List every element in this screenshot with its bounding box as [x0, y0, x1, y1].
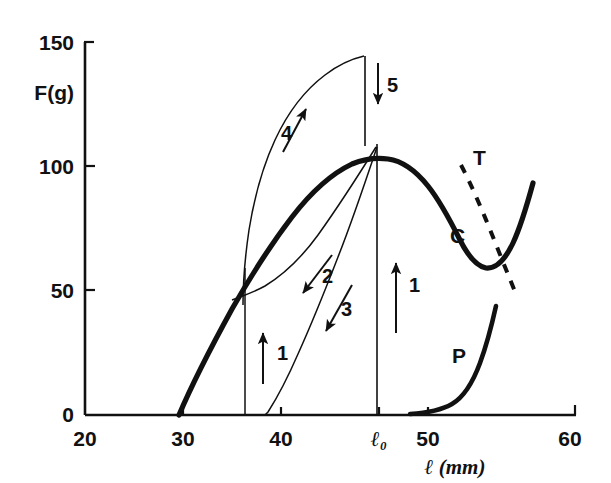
x-tick-label-60: 60 — [558, 427, 581, 450]
x-tick-label-30: 30 — [171, 427, 194, 450]
x-tick-label-l0: ℓ₀ — [371, 427, 387, 451]
arrow-label-2: 2 — [322, 265, 333, 287]
y-tick-label-0: 0 — [62, 403, 74, 426]
force-length-chart: 150 100 50 0 F(g) 20 30 40 ℓ₀ 50 60 ℓ (m… — [0, 0, 611, 483]
y-tick-label-50: 50 — [51, 279, 74, 302]
y-tick-label-150: 150 — [39, 31, 74, 54]
x-tick-label-40: 40 — [269, 427, 292, 450]
curve-label-T: T — [473, 146, 486, 169]
curve-total-T — [179, 158, 533, 415]
y-tick-label-100: 100 — [39, 155, 74, 178]
arrow-label-4: 4 — [281, 122, 293, 144]
line-path-4 — [243, 56, 364, 305]
x-axis-title: ℓ (mm) — [425, 455, 486, 479]
arrow-label-3: 3 — [341, 298, 352, 320]
curve-contractile-C — [461, 165, 516, 294]
x-tick-label-50: 50 — [416, 427, 439, 450]
axis-lines — [84, 42, 576, 415]
arrow-label-5: 5 — [387, 74, 398, 96]
y-axis-title: F(g) — [34, 81, 74, 104]
arrow-label-1-right: 1 — [409, 274, 420, 296]
arrow-label-1-left: 1 — [277, 342, 288, 364]
figure-root: 150 100 50 0 F(g) 20 30 40 ℓ₀ 50 60 ℓ (m… — [0, 0, 611, 483]
x-tick-label-20: 20 — [73, 427, 96, 450]
y-axis-ticks — [85, 166, 95, 290]
curve-label-C: C — [450, 224, 465, 247]
curve-label-P: P — [452, 344, 466, 367]
